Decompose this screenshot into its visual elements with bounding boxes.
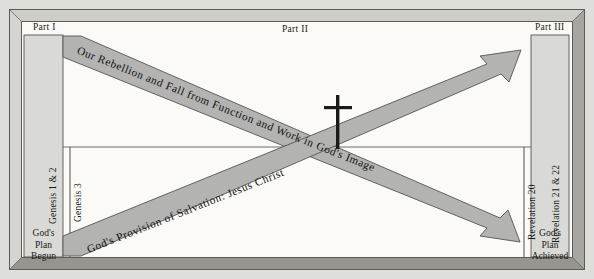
gods-plan-begun-caption: God's Plan Begun	[24, 228, 63, 263]
gods-plan-begun-line3: Begun	[24, 251, 63, 263]
gods-plan-achieved-line1: God's	[529, 228, 571, 240]
part-two-label: Part II	[282, 24, 308, 34]
gods-plan-begun-line2: Plan	[24, 240, 63, 252]
gods-plan-achieved-line3: Achieved	[529, 251, 571, 263]
genesis-3-label: Genesis 3	[73, 183, 83, 222]
gods-plan-achieved-line2: Plan	[529, 240, 571, 252]
diagram-canvas: Part I Part II Part III Genesis 1 & 2 Go…	[0, 0, 594, 279]
genesis-1-2-label: Genesis 1 & 2	[48, 167, 58, 224]
part-three-label: Part III	[535, 22, 565, 32]
gods-plan-achieved-caption: God's Plan Achieved	[529, 228, 571, 263]
part-one-label: Part I	[33, 22, 56, 32]
gods-plan-begun-line1: God's	[24, 228, 63, 240]
